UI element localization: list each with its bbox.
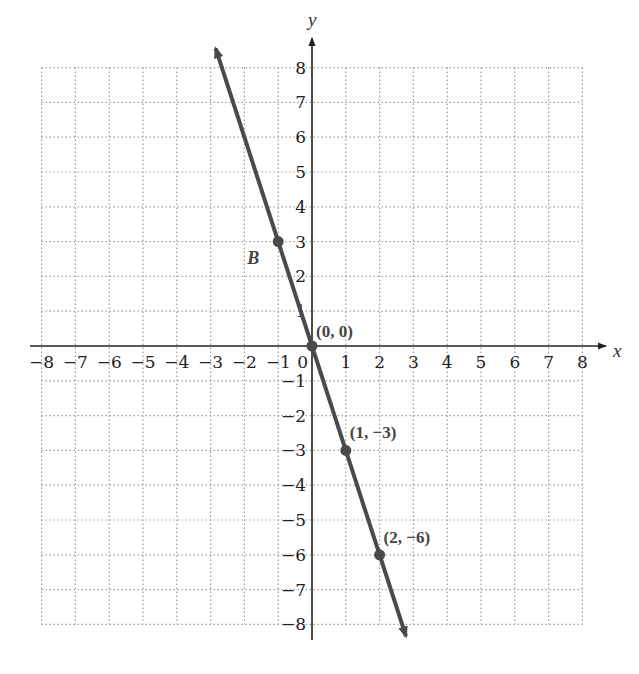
y-tick-label: 7 bbox=[295, 92, 306, 112]
x-tick-label: −4 bbox=[164, 352, 189, 372]
x-tick-label: 1 bbox=[340, 352, 351, 372]
x-tick-label: −2 bbox=[232, 352, 257, 372]
data-point bbox=[307, 341, 318, 352]
x-tick-label: −8 bbox=[29, 352, 54, 372]
x-tick-label: −6 bbox=[97, 352, 122, 372]
x-tick-label: −3 bbox=[198, 352, 223, 372]
y-tick-label: −5 bbox=[281, 510, 306, 530]
y-tick-label: 6 bbox=[295, 127, 306, 147]
y-tick-label: 4 bbox=[295, 197, 306, 217]
x-tick-label: 4 bbox=[442, 352, 453, 372]
point-label: (2, −6) bbox=[384, 528, 431, 547]
x-tick-label: −1 bbox=[266, 352, 291, 372]
x-tick-label: 5 bbox=[476, 352, 487, 372]
y-tick-label: −1 bbox=[281, 371, 306, 391]
data-point bbox=[340, 445, 351, 456]
y-tick-label: −2 bbox=[281, 406, 306, 426]
y-tick-label: −6 bbox=[281, 545, 306, 565]
x-axis-label: x bbox=[612, 340, 622, 361]
y-tick-label: −8 bbox=[281, 614, 306, 634]
y-axis-label: y bbox=[306, 9, 317, 30]
x-tick-label: 8 bbox=[577, 352, 588, 372]
data-point bbox=[273, 236, 284, 247]
y-tick-label: 2 bbox=[295, 266, 306, 286]
x-tick-label: 3 bbox=[408, 352, 419, 372]
y-tick-label: −7 bbox=[281, 580, 306, 600]
x-tick-label: 7 bbox=[543, 352, 554, 372]
x-tick-label: 2 bbox=[374, 352, 385, 372]
coordinate-plane: −8−7−6−5−4−3−2−101234567887654321−1−2−3−… bbox=[0, 0, 639, 674]
data-point bbox=[374, 549, 385, 560]
y-tick-label: −3 bbox=[281, 440, 306, 460]
x-tick-label: −5 bbox=[130, 352, 155, 372]
data-points: B(0, 0)(1, −3)(2, −6) bbox=[246, 236, 430, 560]
y-tick-label: 8 bbox=[295, 58, 306, 78]
y-tick-label: −4 bbox=[281, 475, 306, 495]
point-label: B bbox=[246, 248, 259, 268]
x-tick-label: −7 bbox=[63, 352, 88, 372]
x-tick-label: 0 bbox=[297, 352, 308, 372]
x-tick-label: 6 bbox=[509, 352, 520, 372]
y-tick-label: 5 bbox=[295, 162, 306, 182]
y-tick-label: 3 bbox=[295, 232, 306, 252]
point-label: (1, −3) bbox=[350, 423, 397, 442]
point-label: (0, 0) bbox=[316, 322, 353, 341]
